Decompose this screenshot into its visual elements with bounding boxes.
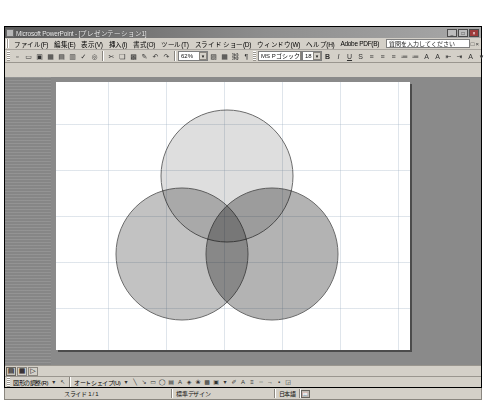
arrow-style-icon[interactable]: →: [265, 378, 274, 387]
italic-button[interactable]: I: [333, 51, 344, 62]
language-label[interactable]: 日本語: [276, 389, 299, 398]
minimize-button[interactable]: _: [447, 29, 457, 37]
formatting-toolbar-grip[interactable]: [253, 51, 256, 61]
close-button[interactable]: ×: [469, 29, 479, 37]
select-arrow-icon[interactable]: ↖: [58, 378, 67, 387]
restore-button[interactable]: □: [458, 29, 468, 37]
slide-show-button[interactable]: ▷: [28, 367, 38, 376]
3d-style-icon[interactable]: ◲: [283, 378, 292, 387]
open-file-icon[interactable]: ▭: [23, 51, 34, 62]
paste-icon[interactable]: ▩: [128, 51, 139, 62]
insert-table-icon[interactable]: ▦: [219, 51, 230, 62]
toolbar-separator: [102, 51, 104, 61]
slide-view-pane[interactable]: [51, 77, 481, 365]
menu-item-file[interactable]: ファイル(F): [11, 38, 51, 50]
normal-view-button[interactable]: ▤: [6, 367, 16, 376]
chevron-down-icon[interactable]: ▾: [121, 378, 130, 387]
document-restore-button[interactable]: □: [471, 41, 475, 47]
chevron-down-icon[interactable]: ▾: [49, 378, 58, 387]
menu-item-view[interactable]: 表示(V): [78, 38, 105, 50]
diagram-icon[interactable]: ◈: [184, 378, 193, 387]
picture-icon[interactable]: ▩: [202, 378, 211, 387]
draw-menu-button[interactable]: 図形の調整(R): [12, 378, 49, 387]
chevron-down-icon[interactable]: ▾: [476, 51, 486, 62]
print-preview-icon[interactable]: ▥: [67, 51, 78, 62]
show-formatting-icon[interactable]: ¶: [241, 51, 252, 62]
slide-sorter-view-button[interactable]: ▦: [17, 367, 27, 376]
text-shadow-button[interactable]: S: [355, 51, 366, 62]
underline-button[interactable]: U: [344, 51, 355, 62]
research-icon[interactable]: ◎: [89, 51, 100, 62]
bold-button[interactable]: B: [322, 51, 333, 62]
bullets-icon[interactable]: ≔: [410, 51, 421, 62]
align-right-icon[interactable]: ≡: [388, 51, 399, 62]
line-icon[interactable]: ╲: [130, 378, 139, 387]
menu-item-help[interactable]: ヘルプ(H): [303, 38, 337, 50]
document-close-button[interactable]: ×: [475, 41, 479, 47]
redo-icon[interactable]: ↷: [161, 51, 172, 62]
undo-icon[interactable]: ↶: [150, 51, 161, 62]
standard-toolbar: ▫ ▭ ▣ ▦ ▤ ▥ ✓ ◎ ✂ ❏ ▩ ✎ ↶ ↷ 62% ▾ ▨ ▦ ⛓ …: [5, 50, 481, 63]
slide-canvas[interactable]: [56, 82, 410, 350]
powerpoint-window: Microsoft PowerPoint - [プレゼンテーション1] _ □ …: [4, 26, 482, 388]
numbering-icon[interactable]: ≔: [399, 51, 410, 62]
increase-font-size-icon[interactable]: A: [421, 51, 432, 62]
cut-icon[interactable]: ✂: [106, 51, 117, 62]
format-painter-icon[interactable]: ✎: [139, 51, 150, 62]
fill-color-arrow[interactable]: ▾: [220, 378, 229, 387]
slide-counter: スライド 1 / 1: [61, 389, 101, 398]
save-icon[interactable]: ▣: [34, 51, 45, 62]
chevron-down-icon[interactable]: ▾: [313, 52, 321, 60]
new-file-icon[interactable]: ▫: [12, 51, 23, 62]
decrease-indent-icon[interactable]: ⇤: [443, 51, 454, 62]
decrease-font-size-icon[interactable]: A: [432, 51, 443, 62]
outline-slides-pane[interactable]: [5, 77, 52, 365]
standard-toolbar-grip[interactable]: [7, 51, 10, 61]
menu-item-insert[interactable]: 挿入(I): [106, 38, 131, 50]
window-controls: _ □ ×: [447, 29, 479, 37]
powerpoint-icon: [6, 29, 14, 37]
copy-icon[interactable]: ❏: [117, 51, 128, 62]
clip-art-icon[interactable]: ❀: [193, 378, 202, 387]
zoom-combobox[interactable]: 62% ▾: [178, 51, 208, 61]
text-box-icon[interactable]: ▤: [166, 378, 175, 387]
ask-a-question-input[interactable]: 質問を入力してください: [386, 39, 470, 48]
zoom-value: 62%: [181, 52, 193, 61]
menu-item-slideshow[interactable]: スライド ショー(D): [192, 38, 255, 50]
insert-hyperlink-icon[interactable]: ⛓: [230, 51, 241, 62]
increase-indent-icon[interactable]: ⇥: [454, 51, 465, 62]
spelling-icon[interactable]: ✓: [78, 51, 89, 62]
font-size-combobox[interactable]: 18 ▾: [302, 51, 322, 61]
spell-check-icon[interactable]: 📖: [301, 390, 310, 398]
bottom-right-circle: [206, 188, 338, 320]
fill-color-icon[interactable]: ▣: [211, 378, 220, 387]
insert-chart-icon[interactable]: ▨: [208, 51, 219, 62]
menu-item-edit[interactable]: 編集(E): [51, 38, 78, 50]
menu-item-format[interactable]: 書式(O): [130, 38, 158, 50]
line-style-icon[interactable]: ≡: [247, 378, 256, 387]
shadow-style-icon[interactable]: ▪: [274, 378, 283, 387]
dash-style-icon[interactable]: ┄: [256, 378, 265, 387]
font-name-combobox[interactable]: MS Pゴシック ▾: [258, 51, 302, 61]
align-left-icon[interactable]: ≡: [366, 51, 377, 62]
oval-icon[interactable]: ◯: [157, 378, 166, 387]
rectangle-icon[interactable]: ▭: [148, 378, 157, 387]
align-center-icon[interactable]: ≡: [377, 51, 388, 62]
line-color-icon[interactable]: ✐: [229, 378, 238, 387]
menu-item-adobe-pdf[interactable]: Adobe PDF(B): [337, 39, 382, 48]
chevron-down-icon[interactable]: ▾: [199, 52, 207, 60]
arrow-icon[interactable]: ↘: [139, 378, 148, 387]
three-circle-venn-diagram[interactable]: [112, 108, 342, 324]
font-color-icon[interactable]: A: [465, 51, 476, 62]
font-color-icon[interactable]: A: [238, 378, 247, 387]
menu-bar-grip[interactable]: [6, 39, 9, 48]
menu-item-window[interactable]: ウィンドウ(W): [254, 38, 303, 50]
print-icon[interactable]: ▤: [56, 51, 67, 62]
design-template-label[interactable]: 標準デザイン: [173, 389, 213, 398]
drawing-toolbar-grip[interactable]: [7, 377, 10, 387]
font-size-value: 18: [305, 52, 312, 61]
wordart-icon[interactable]: A: [175, 378, 184, 387]
autoshapes-menu-button[interactable]: オートシェイプ(U): [73, 378, 121, 387]
permission-icon[interactable]: ▦: [45, 51, 56, 62]
menu-item-tools[interactable]: ツール(T): [158, 38, 192, 50]
